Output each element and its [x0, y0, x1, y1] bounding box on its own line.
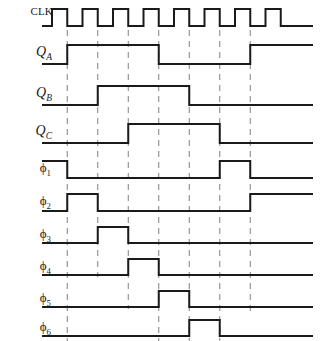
signal-label-phi5-text: ϕ — [40, 290, 47, 305]
signal-label-qc-text: Q — [36, 123, 46, 138]
waveform-phi4 — [42, 259, 313, 275]
signal-label-qc: QC — [36, 124, 52, 141]
waveform-qc — [42, 124, 313, 143]
signal-label-phi3-subscript: 3 — [47, 234, 51, 244]
signal-label-qb: QB — [36, 86, 52, 103]
waveform-phi6 — [42, 320, 313, 336]
timing-diagram: CLK QA QB QC ϕ1 ϕ2 ϕ3 ϕ4 ϕ5 ϕ6 — [0, 0, 321, 341]
signal-label-phi6-subscript: 6 — [47, 327, 51, 337]
waveform-qa — [42, 45, 313, 64]
signal-label-phi6-text: ϕ — [40, 319, 47, 334]
signal-label-phi1-subscript: 1 — [47, 168, 51, 178]
signal-label-phi4: ϕ4 — [40, 259, 51, 275]
waveform-clk — [42, 9, 313, 26]
signal-label-qb-subscript: B — [46, 93, 52, 103]
signal-label-phi2: ϕ2 — [40, 194, 51, 210]
signal-label-phi2-subscript: 2 — [47, 201, 51, 211]
signal-label-qa-subscript: A — [46, 52, 52, 62]
signal-label-phi1-text: ϕ — [40, 160, 47, 175]
signal-label-qc-subscript: C — [46, 131, 52, 141]
waveform-phi3 — [42, 227, 313, 243]
signal-label-clk-text: CLK — [30, 5, 53, 17]
signal-label-phi4-subscript: 4 — [47, 266, 51, 276]
waveform-phi5 — [42, 291, 313, 307]
signal-label-phi5-subscript: 5 — [47, 298, 51, 308]
waveform-qb — [42, 86, 313, 105]
waveform-phi1 — [42, 161, 313, 178]
signal-label-phi4-text: ϕ — [40, 258, 47, 273]
signal-label-qa: QA — [36, 45, 52, 62]
waveform-phi2 — [42, 194, 313, 211]
signal-label-phi6: ϕ6 — [40, 320, 51, 336]
waveform-group — [42, 9, 313, 336]
signal-label-clk: CLK — [30, 6, 53, 17]
signal-label-phi1: ϕ1 — [40, 161, 51, 177]
signal-label-phi5: ϕ5 — [40, 291, 51, 307]
signal-label-qa-text: Q — [36, 44, 46, 59]
signal-label-phi2-text: ϕ — [40, 193, 47, 208]
signal-label-qb-text: Q — [36, 85, 46, 100]
signal-label-phi3: ϕ3 — [40, 227, 51, 243]
signal-label-phi3-text: ϕ — [40, 226, 47, 241]
